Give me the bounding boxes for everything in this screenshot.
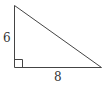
right-angle-marker: [15, 60, 23, 68]
horizontal-leg-label: 8: [54, 70, 62, 84]
triangle-outline: [15, 6, 102, 68]
right-triangle-diagram: 6 8: [0, 0, 106, 87]
vertical-leg-label: 6: [3, 31, 11, 45]
